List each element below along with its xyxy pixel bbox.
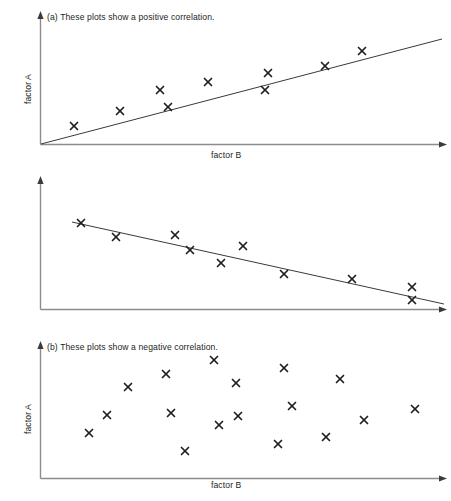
panel-no-correlation: (c) These plots show no correlation. fac… — [0, 330, 451, 501]
data-point-marker — [235, 413, 242, 420]
data-points-c — [86, 357, 419, 455]
data-point-marker — [359, 48, 366, 55]
data-point-marker — [71, 123, 78, 130]
data-point-marker — [281, 365, 288, 372]
y-axis-arrow-a — [37, 11, 43, 19]
scatter-plot-a — [0, 0, 451, 165]
data-points-a — [71, 48, 366, 130]
data-point-marker — [172, 232, 179, 239]
data-point-marker — [275, 441, 282, 448]
y-axis-arrow-c — [37, 341, 43, 349]
data-point-marker — [104, 412, 111, 419]
panel-positive-correlation: (a) These plots show a positive correlat… — [0, 0, 451, 165]
data-points-b — [78, 220, 416, 304]
data-point-marker — [182, 448, 189, 455]
correlation-figure: (a) These plots show a positive correlat… — [0, 0, 451, 501]
scatter-plot-c — [0, 330, 451, 501]
y-axis-label-a: factor A — [23, 74, 33, 104]
data-point-marker — [262, 87, 269, 94]
trendline-a — [41, 39, 442, 144]
data-point-marker — [323, 434, 330, 441]
data-point-marker — [125, 384, 132, 391]
data-point-marker — [409, 297, 416, 304]
data-point-marker — [168, 410, 175, 417]
data-point-marker — [205, 79, 212, 86]
y-axis-arrow-b — [37, 176, 43, 184]
trendline-b — [72, 222, 444, 304]
panel-negative-correlation: (b) These plots show a negative correlat… — [0, 165, 451, 330]
x-axis-arrow-a — [439, 141, 447, 147]
data-point-marker — [218, 260, 225, 267]
x-axis-label-a: factor B — [211, 150, 241, 160]
data-point-marker — [322, 63, 329, 70]
data-point-marker — [361, 417, 368, 424]
data-point-marker — [165, 104, 172, 111]
panel-caption-a: (a) These plots show a positive correlat… — [47, 12, 215, 23]
data-point-marker — [349, 276, 356, 283]
scatter-plot-b — [0, 165, 451, 330]
data-point-marker — [412, 406, 419, 413]
x-axis-arrow-c — [439, 475, 447, 481]
data-point-marker — [86, 430, 93, 437]
data-point-marker — [113, 234, 120, 241]
data-point-marker — [289, 403, 296, 410]
data-point-marker — [240, 243, 247, 250]
data-point-marker — [117, 108, 124, 115]
data-point-marker — [157, 87, 164, 94]
data-point-marker — [163, 371, 170, 378]
data-point-marker — [265, 70, 272, 77]
data-point-marker — [211, 357, 218, 364]
data-point-marker — [337, 376, 344, 383]
x-axis-arrow-b — [439, 306, 447, 312]
data-point-marker — [281, 271, 288, 278]
data-point-marker — [216, 422, 223, 429]
data-point-marker — [409, 284, 416, 291]
data-point-marker — [233, 380, 240, 387]
